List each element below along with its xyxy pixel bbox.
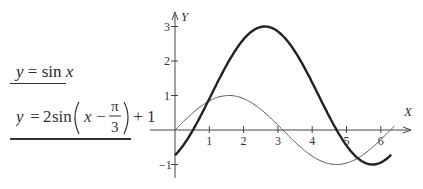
y-axis-label: Y: [181, 9, 190, 24]
x-tick-label: 1: [206, 134, 212, 148]
x-tick-label: 2: [241, 134, 247, 148]
y-tick-label: 1: [164, 89, 170, 103]
y-tick-label: −1: [159, 158, 172, 172]
x-tick-label: 4: [309, 134, 315, 148]
x-tick-label: 3: [275, 134, 281, 148]
x-axis-label: X: [403, 104, 413, 119]
function-plot: XY123456−1123: [0, 0, 423, 189]
y-tick-label: 2: [164, 54, 170, 68]
y-tick-label: 3: [164, 20, 170, 34]
